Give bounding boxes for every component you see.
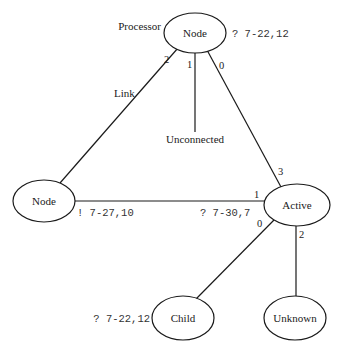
node-top-caption: Processor xyxy=(118,20,161,32)
node-top[interactable]: Node xyxy=(164,13,226,53)
node-left[interactable]: Node xyxy=(13,180,75,222)
node-active-label: Active xyxy=(282,199,311,211)
port-active-2: 2 xyxy=(299,229,304,240)
edge-link-label: Link xyxy=(114,87,135,99)
port-top-2: 2 xyxy=(164,54,169,65)
edge-unconnected-label: Unconnected xyxy=(166,133,225,145)
node-unknown-label: Unknown xyxy=(273,312,317,324)
edge-left-active-annotation: ? 7-30,7 xyxy=(200,207,250,219)
edge-active-child xyxy=(196,220,274,299)
port-active-3: 3 xyxy=(278,166,283,177)
node-child[interactable]: Child xyxy=(152,296,214,340)
node-top-annotation: ? 7-22,12 xyxy=(232,28,289,40)
node-left-label: Node xyxy=(32,195,56,207)
node-child-label: Child xyxy=(171,312,196,324)
port-top-0: 0 xyxy=(219,60,224,71)
node-child-annotation: ? 7-22,12 xyxy=(93,313,150,325)
port-top-1: 1 xyxy=(187,59,192,70)
edge-top-left xyxy=(60,48,178,183)
port-active-0: 0 xyxy=(257,218,262,229)
diagram-canvas: Node Processor ? 7-22,12 Node Active Chi… xyxy=(0,0,339,351)
node-unknown[interactable]: Unknown xyxy=(264,296,326,340)
graph-svg: Node Processor ? 7-22,12 Node Active Chi… xyxy=(0,0,339,351)
node-active[interactable]: Active xyxy=(264,184,330,226)
node-left-annotation: ! 7-27,10 xyxy=(77,207,134,219)
port-active-1: 1 xyxy=(254,189,259,200)
node-top-label: Node xyxy=(183,27,207,39)
